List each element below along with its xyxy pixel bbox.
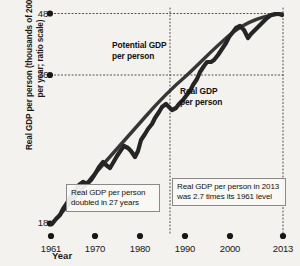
x-axis-title: Year: [52, 250, 72, 261]
series-label-real-line1: Real GDP: [180, 86, 222, 97]
figure-real-gdp-per-person: Real GDP per person (thousands of 2007 d…: [0, 0, 300, 266]
annotation-box-doubling: Real GDP per person doubled in 27 years: [66, 184, 160, 212]
x-axis-tick-2000: 2000: [210, 243, 250, 254]
series-label-real-gdp: Real GDP per person: [180, 86, 222, 107]
x-axis-tick-1990: 1990: [165, 243, 205, 254]
series-label-real-line2: per person: [180, 97, 222, 108]
series-label-potential-gdp: Potential GDP per person: [112, 40, 167, 61]
series-label-potential-line1: Potential GDP: [112, 40, 167, 51]
xaxis-tick-dots: [48, 233, 286, 239]
y-axis-tick-36: 36: [26, 69, 48, 80]
y-axis-tick-48: 48: [26, 8, 48, 19]
x-axis-tick-1970: 1970: [75, 243, 115, 254]
series-label-potential-line2: per person: [112, 51, 167, 62]
x-axis-tick-2013: 2013: [263, 243, 300, 254]
annotation-box-2013-vs-1961: Real GDP per person in 2013 was 2.7 time…: [172, 178, 286, 206]
x-axis-tick-1980: 1980: [120, 243, 160, 254]
y-axis-tick-18: 18: [26, 217, 48, 228]
gridline-horizontal-36: [47, 72, 284, 78]
gridline-horizontal-48: [47, 10, 284, 16]
